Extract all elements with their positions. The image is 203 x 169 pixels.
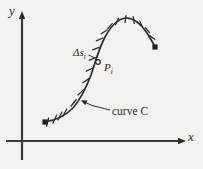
point-label: Pi xyxy=(104,62,113,76)
point-subscript: i xyxy=(111,67,113,76)
axes-group xyxy=(6,18,179,160)
arc-segment-subscript: i xyxy=(84,52,86,61)
curve-start-endpoint xyxy=(42,119,47,124)
curve-c-leader xyxy=(86,103,111,111)
curve-label: curve C xyxy=(112,106,148,118)
x-axis-label: x xyxy=(188,130,194,143)
delta-s-leader xyxy=(89,55,96,58)
arc-segment-symbol: Δs xyxy=(73,46,84,58)
point-symbol: P xyxy=(104,61,111,73)
arc-segment-label: Δsi xyxy=(73,47,86,61)
figure-canvas xyxy=(0,0,203,169)
line-integral-figure: y x Δsi Pi curve C xyxy=(0,0,203,169)
curve-end-endpoint xyxy=(152,44,157,49)
y-axis-label: y xyxy=(9,4,15,17)
point-pi-marker xyxy=(96,60,101,65)
